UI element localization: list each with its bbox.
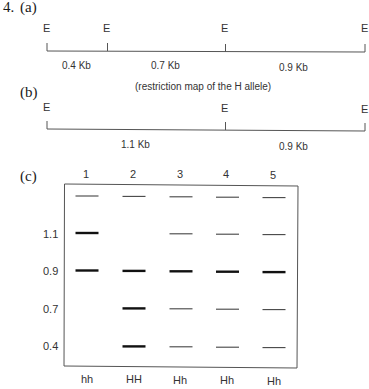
gel-frame bbox=[64, 184, 298, 368]
gel-bands bbox=[76, 196, 286, 348]
diagram-canvas bbox=[0, 0, 369, 389]
restriction-map-a bbox=[47, 43, 365, 52]
map-b-backbone bbox=[47, 129, 365, 131]
restriction-map-b bbox=[47, 121, 365, 131]
map-a-backbone bbox=[47, 51, 365, 52]
